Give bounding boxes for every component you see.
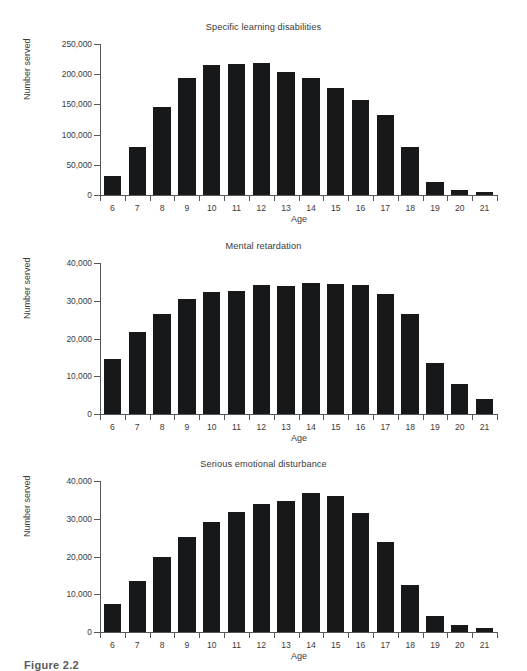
bar	[352, 100, 369, 195]
y-tick-label: 30,000	[66, 296, 92, 306]
bar	[451, 384, 468, 414]
x-tick-label: 15	[331, 640, 341, 650]
x-tick-mark	[100, 633, 101, 638]
x-tick-label: 11	[232, 203, 241, 213]
bar	[253, 504, 270, 632]
x-tick-label: 7	[135, 640, 140, 650]
x-tick-label: 6	[110, 203, 115, 213]
x-tick-label: 16	[356, 640, 366, 650]
x-tick-label: 9	[184, 203, 189, 213]
x-tick-mark	[398, 415, 399, 420]
x-tick-mark	[174, 415, 175, 420]
bar	[253, 63, 270, 195]
chart-title: Specific learning disabilities	[0, 22, 527, 32]
x-tick-mark	[274, 633, 275, 638]
x-tick-mark	[497, 196, 498, 201]
bar	[352, 285, 369, 414]
x-tick-mark	[100, 415, 101, 420]
y-tick-label: 150,000	[62, 99, 92, 109]
x-axis-label: Age	[100, 651, 498, 661]
x-tick-mark	[199, 415, 200, 420]
x-tick-mark	[472, 415, 473, 420]
x-tick-label: 14	[306, 422, 316, 432]
x-tick-mark	[249, 633, 250, 638]
x-tick-label: 21	[480, 203, 490, 213]
y-tick-group: 010,00020,00030,00040,000	[0, 263, 100, 414]
x-tick-label: 10	[207, 422, 217, 432]
y-tick-label: 30,000	[66, 514, 92, 524]
y-tick-label: 200,000	[62, 69, 92, 79]
plot-area	[100, 263, 497, 414]
x-tick-label: 15	[331, 203, 341, 213]
x-tick-mark	[100, 196, 101, 201]
x-tick-label: 7	[135, 422, 140, 432]
x-tick-mark	[224, 415, 225, 420]
x-tick-label: 21	[480, 640, 490, 650]
x-tick-label: 12	[257, 203, 267, 213]
x-tick-mark	[398, 633, 399, 638]
x-tick-mark	[274, 196, 275, 201]
bar	[302, 493, 319, 632]
chart-title: Serious emotional disturbance	[0, 459, 527, 469]
bar	[153, 557, 170, 632]
bar	[178, 537, 195, 633]
bar	[451, 625, 468, 632]
x-tick-mark	[423, 633, 424, 638]
x-tick-mark	[423, 196, 424, 201]
y-tick-label: 40,000	[66, 258, 92, 268]
bar	[377, 294, 394, 414]
bar	[228, 291, 245, 414]
bar	[253, 285, 270, 414]
figure-caption: Figure 2.2	[24, 659, 79, 671]
x-tick-label: 16	[356, 203, 366, 213]
x-tick-label: 13	[281, 640, 291, 650]
x-tick-label: 8	[160, 640, 165, 650]
x-tick-label: 17	[381, 640, 391, 650]
y-tick-label: 0	[87, 409, 92, 419]
bar	[302, 283, 319, 414]
x-axis-label: Age	[100, 214, 498, 224]
x-tick-mark	[150, 415, 151, 420]
chart-panel-serious-emotional-disturbance: Serious emotional disturbanceNumber serv…	[0, 455, 527, 670]
x-tick-label: 18	[405, 422, 415, 432]
x-tick-label: 20	[455, 203, 465, 213]
bar	[104, 604, 121, 632]
x-tick-mark	[447, 415, 448, 420]
bar	[476, 192, 493, 195]
chart-panel-specific-learning-disabilities: Specific learning disabilitiesNumber ser…	[0, 18, 527, 233]
x-tick-mark	[497, 415, 498, 420]
bar	[327, 496, 344, 632]
x-tick-group	[100, 633, 498, 639]
x-tick-mark	[150, 633, 151, 638]
bar	[153, 107, 170, 195]
x-tick-mark	[224, 196, 225, 201]
bar	[203, 522, 220, 632]
x-tick-label: 12	[257, 422, 267, 432]
bar	[401, 147, 418, 195]
x-tick-mark	[472, 196, 473, 201]
x-tick-label: 13	[281, 422, 291, 432]
x-tick-label: 18	[405, 203, 415, 213]
x-tick-mark	[174, 633, 175, 638]
chart-panel-mental-retardation: Mental retardationNumber served010,00020…	[0, 237, 527, 452]
x-tick-mark	[373, 415, 374, 420]
x-axis-label: Age	[100, 433, 498, 443]
y-tick-group: 010,00020,00030,00040,000	[0, 481, 100, 632]
x-tick-mark	[472, 633, 473, 638]
bar	[377, 115, 394, 195]
x-tick-mark	[323, 633, 324, 638]
x-tick-mark	[125, 633, 126, 638]
x-tick-label: 8	[160, 203, 165, 213]
bar	[451, 190, 468, 195]
x-tick-label: 6	[110, 422, 115, 432]
x-tick-label: 12	[257, 640, 267, 650]
x-tick-label: 9	[184, 422, 189, 432]
x-tick-mark	[373, 633, 374, 638]
x-tick-mark	[348, 633, 349, 638]
x-tick-label: 9	[184, 640, 189, 650]
figure-bar-charts: Specific learning disabilitiesNumber ser…	[0, 0, 527, 671]
x-tick-mark	[299, 633, 300, 638]
y-tick-label: 10,000	[66, 589, 92, 599]
x-tick-label: 14	[306, 203, 316, 213]
bar	[277, 501, 294, 632]
